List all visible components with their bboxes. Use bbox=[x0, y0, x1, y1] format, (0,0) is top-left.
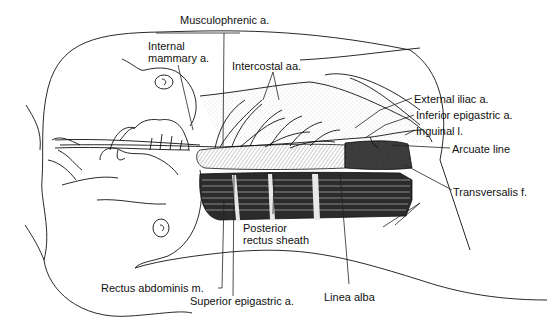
label-internal-mammary-line1: Internal bbox=[148, 40, 185, 52]
label-arcuate-line: Arcuate line bbox=[452, 143, 510, 155]
label-linea-alba: Linea alba bbox=[324, 291, 375, 303]
reflected-flap bbox=[55, 119, 200, 159]
label-posterior-sheath-line2: rectus sheath bbox=[243, 234, 309, 246]
label-intercostal: Intercostal aa. bbox=[232, 60, 301, 72]
label-external-iliac: External iliac a. bbox=[414, 93, 489, 105]
anatomy-illustration bbox=[0, 0, 547, 336]
rectus-abdominis bbox=[200, 172, 412, 220]
label-transversalis: Transversalis f. bbox=[453, 186, 527, 198]
label-posterior-sheath-line1: Posterior bbox=[243, 222, 287, 234]
label-internal-mammary-line2: mammary a. bbox=[148, 52, 209, 64]
label-inferior-epigastric: Inferior epigastric a. bbox=[416, 109, 513, 121]
label-inguinal: Inguinal l. bbox=[416, 125, 463, 137]
label-superior-epigastric: Superior epigastric a. bbox=[190, 295, 294, 307]
label-musculophrenic: Musculophrenic a. bbox=[180, 14, 269, 26]
label-rectus-abdominis: Rectus abdominis m. bbox=[101, 282, 204, 294]
